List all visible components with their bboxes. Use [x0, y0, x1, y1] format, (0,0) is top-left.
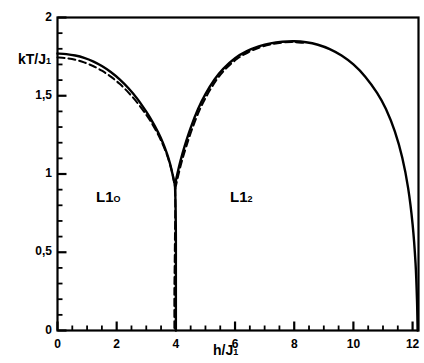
x-tick-label: 2 — [107, 337, 127, 351]
phase-label-l12: L12 — [230, 188, 253, 205]
x-tick-label: 4 — [166, 337, 186, 351]
x-tick-label: 0 — [48, 337, 68, 351]
y-axis-label: kT/J1 — [18, 51, 51, 67]
phase-label-l10-text: L1 — [96, 188, 114, 205]
y-tick-label: 0 — [14, 323, 52, 337]
phase-label-l12-subscript: 2 — [248, 194, 253, 204]
x-tick-label: 6 — [225, 337, 245, 351]
x-tick-label: 8 — [284, 337, 304, 351]
y-tick-label: 2 — [14, 10, 52, 24]
y-axis-label-text: kT/J — [18, 51, 46, 67]
y-tick-label: 0,5 — [14, 244, 52, 258]
x-tick-label: 10 — [343, 337, 363, 351]
y-axis-label-subscript: 1 — [46, 56, 51, 66]
phase-diagram-figure: kT/J1 h/J1 L1O L12 024681012 00,511,52 — [0, 0, 424, 363]
plot-canvas — [0, 0, 424, 363]
phase-label-l12-text: L1 — [230, 188, 248, 205]
x-tick-label: 12 — [403, 337, 423, 351]
phase-label-l10-subscript: O — [114, 194, 121, 204]
y-tick-label: 1,5 — [14, 88, 52, 102]
phase-label-l10: L1O — [96, 188, 121, 205]
y-tick-label: 1 — [14, 166, 52, 180]
